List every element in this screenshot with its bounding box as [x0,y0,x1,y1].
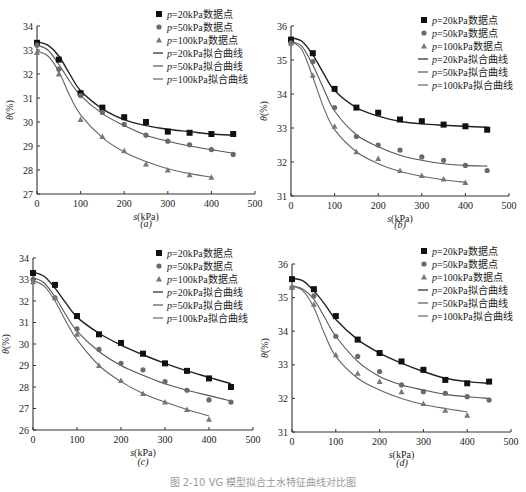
data-point [165,139,170,144]
data-point [122,122,127,127]
chart-panel-b: 3132333435360100200300400500s(kPa)θ(%)p=… [258,14,517,232]
legend-label: p=100kPa数据点 [431,40,503,52]
y-tick-label: 27 [23,189,33,200]
x-tick-label: 100 [73,198,88,209]
figure-caption: 图 2-10 VG 模型拟合土水特征曲线对比图 [0,474,526,489]
x-tick-label: 200 [114,434,129,445]
legend-label: p=50kPa拟合曲线 [431,66,508,78]
x-tick-label: 100 [327,200,342,211]
data-point [208,131,214,137]
legend-label: p=50kPa数据点 [166,21,233,33]
data-point [56,57,62,63]
data-point [78,93,83,98]
data-point [289,276,295,282]
panel-label: (b) [394,219,406,231]
y-tick-label: 28 [19,382,29,393]
data-point [99,105,105,111]
data-point [441,122,447,128]
data-point [355,370,361,376]
y-tick-label: 32 [277,157,287,168]
legend-label: p=50kPa数据点 [166,260,233,272]
data-point [74,326,79,331]
y-tick-label: 31 [23,93,33,104]
x-tick-label: 500 [246,434,261,445]
y-tick-label: 34 [23,21,33,32]
legend: p=20kPa数据点p=50kPa数据点p=100kPa数据点p=20kPa拟合… [418,14,513,91]
data-point [52,282,58,288]
data-point [486,379,492,385]
data-point [464,412,470,418]
legend-label: p=50kPa拟合曲线 [166,60,243,72]
legend: p=20kPa数据点p=50kPa数据点p=100kPa数据点p=20kPa拟合… [153,247,248,324]
data-point [355,337,361,343]
data-point [399,382,404,387]
data-point [74,313,80,319]
data-point [421,389,426,394]
data-point [231,152,236,157]
data-point [377,350,383,356]
y-tick-label: 27 [19,403,29,414]
data-point [230,131,236,137]
x-tick-label: 500 [504,436,519,447]
data-point [419,118,425,124]
x-tick-label: 300 [414,200,429,211]
legend-marker-icon [156,263,161,268]
data-point [332,86,338,92]
legend-label: p=20kPa数据点 [166,247,233,259]
data-point [441,176,447,182]
data-point [228,399,233,404]
data-point [187,130,193,136]
data-point [419,154,424,159]
legend-marker-icon [156,250,162,256]
data-point [377,379,383,385]
y-axis-label: θ(%) [4,100,16,120]
x-tick-label: 0 [289,200,294,211]
data-point [311,293,316,298]
figure-canvas: 27282930313233340100200300400500s(kPa)θ(… [0,0,526,492]
legend-label: p=100kPa拟合曲线 [431,310,513,322]
data-point [310,50,316,56]
y-tick-label: 36 [277,21,287,32]
data-point [375,156,381,162]
legend-marker-icon [156,276,162,282]
legend-marker-icon [421,17,427,23]
y-tick-label: 29 [19,360,29,371]
y-tick-label: 32 [19,296,29,307]
legend-marker-icon [421,43,427,49]
y-tick-label: 31 [278,427,288,438]
x-tick-label: 400 [458,200,473,211]
data-point [96,347,101,352]
data-point [420,367,426,373]
data-point [420,400,426,406]
legend-label: p=100kPa拟合曲线 [166,312,248,324]
y-tick-label: 33 [23,45,33,56]
data-point [354,134,359,139]
legend-marker-icon [156,24,161,29]
x-tick-label: 0 [31,434,36,445]
legend-label: p=50kPa数据点 [431,258,498,270]
legend-label: p=20kPa数据点 [431,245,498,257]
legend-label: p=100kPa拟合曲线 [431,79,513,91]
legend-marker-icon [421,248,427,254]
legend-label: p=100kPa数据点 [431,271,503,283]
y-tick-label: 30 [23,117,33,128]
y-tick-label: 34 [19,253,29,264]
y-tick-label: 35 [278,292,288,303]
legend-label: p=20kPa拟合曲线 [166,286,243,298]
x-tick-label: 400 [202,434,217,445]
data-point [376,142,381,147]
y-tick-label: 32 [278,393,288,404]
y-tick-label: 33 [277,123,287,134]
data-point [228,384,234,390]
data-point [443,391,448,396]
data-point [462,123,468,129]
data-point [485,168,490,173]
x-tick-label: 400 [204,198,219,209]
legend-label: p=20kPa数据点 [166,8,233,20]
data-point [96,331,102,337]
chart-panel-a: 27282930313233340100200300400500s(kPa)θ(… [4,8,263,231]
legend-label: p=50kPa拟合曲线 [431,297,508,309]
data-point [140,390,146,396]
legend-label: p=20kPa拟合曲线 [166,47,243,59]
data-point [143,119,149,125]
